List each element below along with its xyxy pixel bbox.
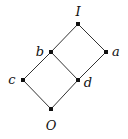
edge-I-b <box>51 24 78 52</box>
hasse-diagram: IbacdO <box>0 0 128 139</box>
node-label-c: c <box>8 72 16 87</box>
edge-c-O <box>23 80 51 109</box>
node-a <box>104 50 108 54</box>
edge-I-a <box>78 24 106 52</box>
node-label-O: O <box>46 118 57 133</box>
edge-b-d <box>51 52 78 80</box>
node-label-I: I <box>74 4 81 19</box>
node-I <box>76 22 80 26</box>
edges <box>23 24 106 109</box>
edge-d-O <box>51 80 78 109</box>
node-label-d: d <box>84 75 92 90</box>
labels: IbacdO <box>8 4 120 133</box>
node-label-b: b <box>36 44 44 59</box>
node-label-a: a <box>112 44 120 59</box>
node-O <box>49 107 53 111</box>
node-c <box>21 78 25 82</box>
node-d <box>76 78 80 82</box>
node-b <box>49 50 53 54</box>
